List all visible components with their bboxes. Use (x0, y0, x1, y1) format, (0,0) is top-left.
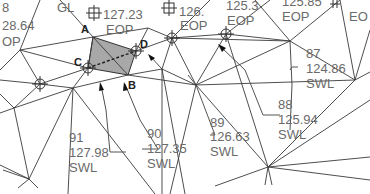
point-label-a: A (81, 23, 89, 35)
shot-number: 88 (278, 97, 292, 112)
shot-code: SWL (210, 144, 238, 159)
shot-number: 90 (147, 126, 161, 141)
label-fragment-number: 8 (2, 0, 9, 15)
label-elevation: 126. (179, 4, 204, 19)
label-elevation: 125.85 (282, 0, 322, 9)
label-code: OP (2, 34, 21, 49)
shot-number: 91 (69, 130, 83, 145)
label-code: EOP (180, 18, 207, 33)
shot-number: 89 (210, 115, 224, 130)
shot-elevation: 127.98 (69, 145, 109, 160)
shot-code: SWL (306, 76, 334, 91)
label-code: EOP (282, 9, 309, 24)
label-code: EOP (106, 22, 133, 37)
point-label-d: D (140, 38, 148, 50)
shot-elevation: 125.94 (278, 112, 318, 127)
label-elevation: 28.64 (2, 18, 35, 33)
tin-drawing-canvas: A B C D 8 28.64 OP GL 127.23 EOP 126. EO… (0, 0, 370, 194)
point-label-c: C (74, 56, 82, 68)
label-gl: GL (57, 0, 74, 15)
label-code: EO (349, 9, 368, 24)
label-code: EOP (227, 13, 254, 28)
shot-elevation: 124.86 (306, 61, 346, 76)
label-elevation: 127.23 (103, 7, 143, 22)
shot-code: SWL (69, 160, 97, 175)
shot-elevation: 127.35 (147, 141, 187, 156)
point-label-b: B (128, 79, 136, 91)
shot-code: SWL (278, 127, 306, 142)
shot-number: 87 (306, 46, 320, 61)
shot-elevation: 126.63 (210, 129, 250, 144)
label-elevation: 125.3 (226, 0, 259, 13)
shot-code: SWL (147, 156, 175, 171)
